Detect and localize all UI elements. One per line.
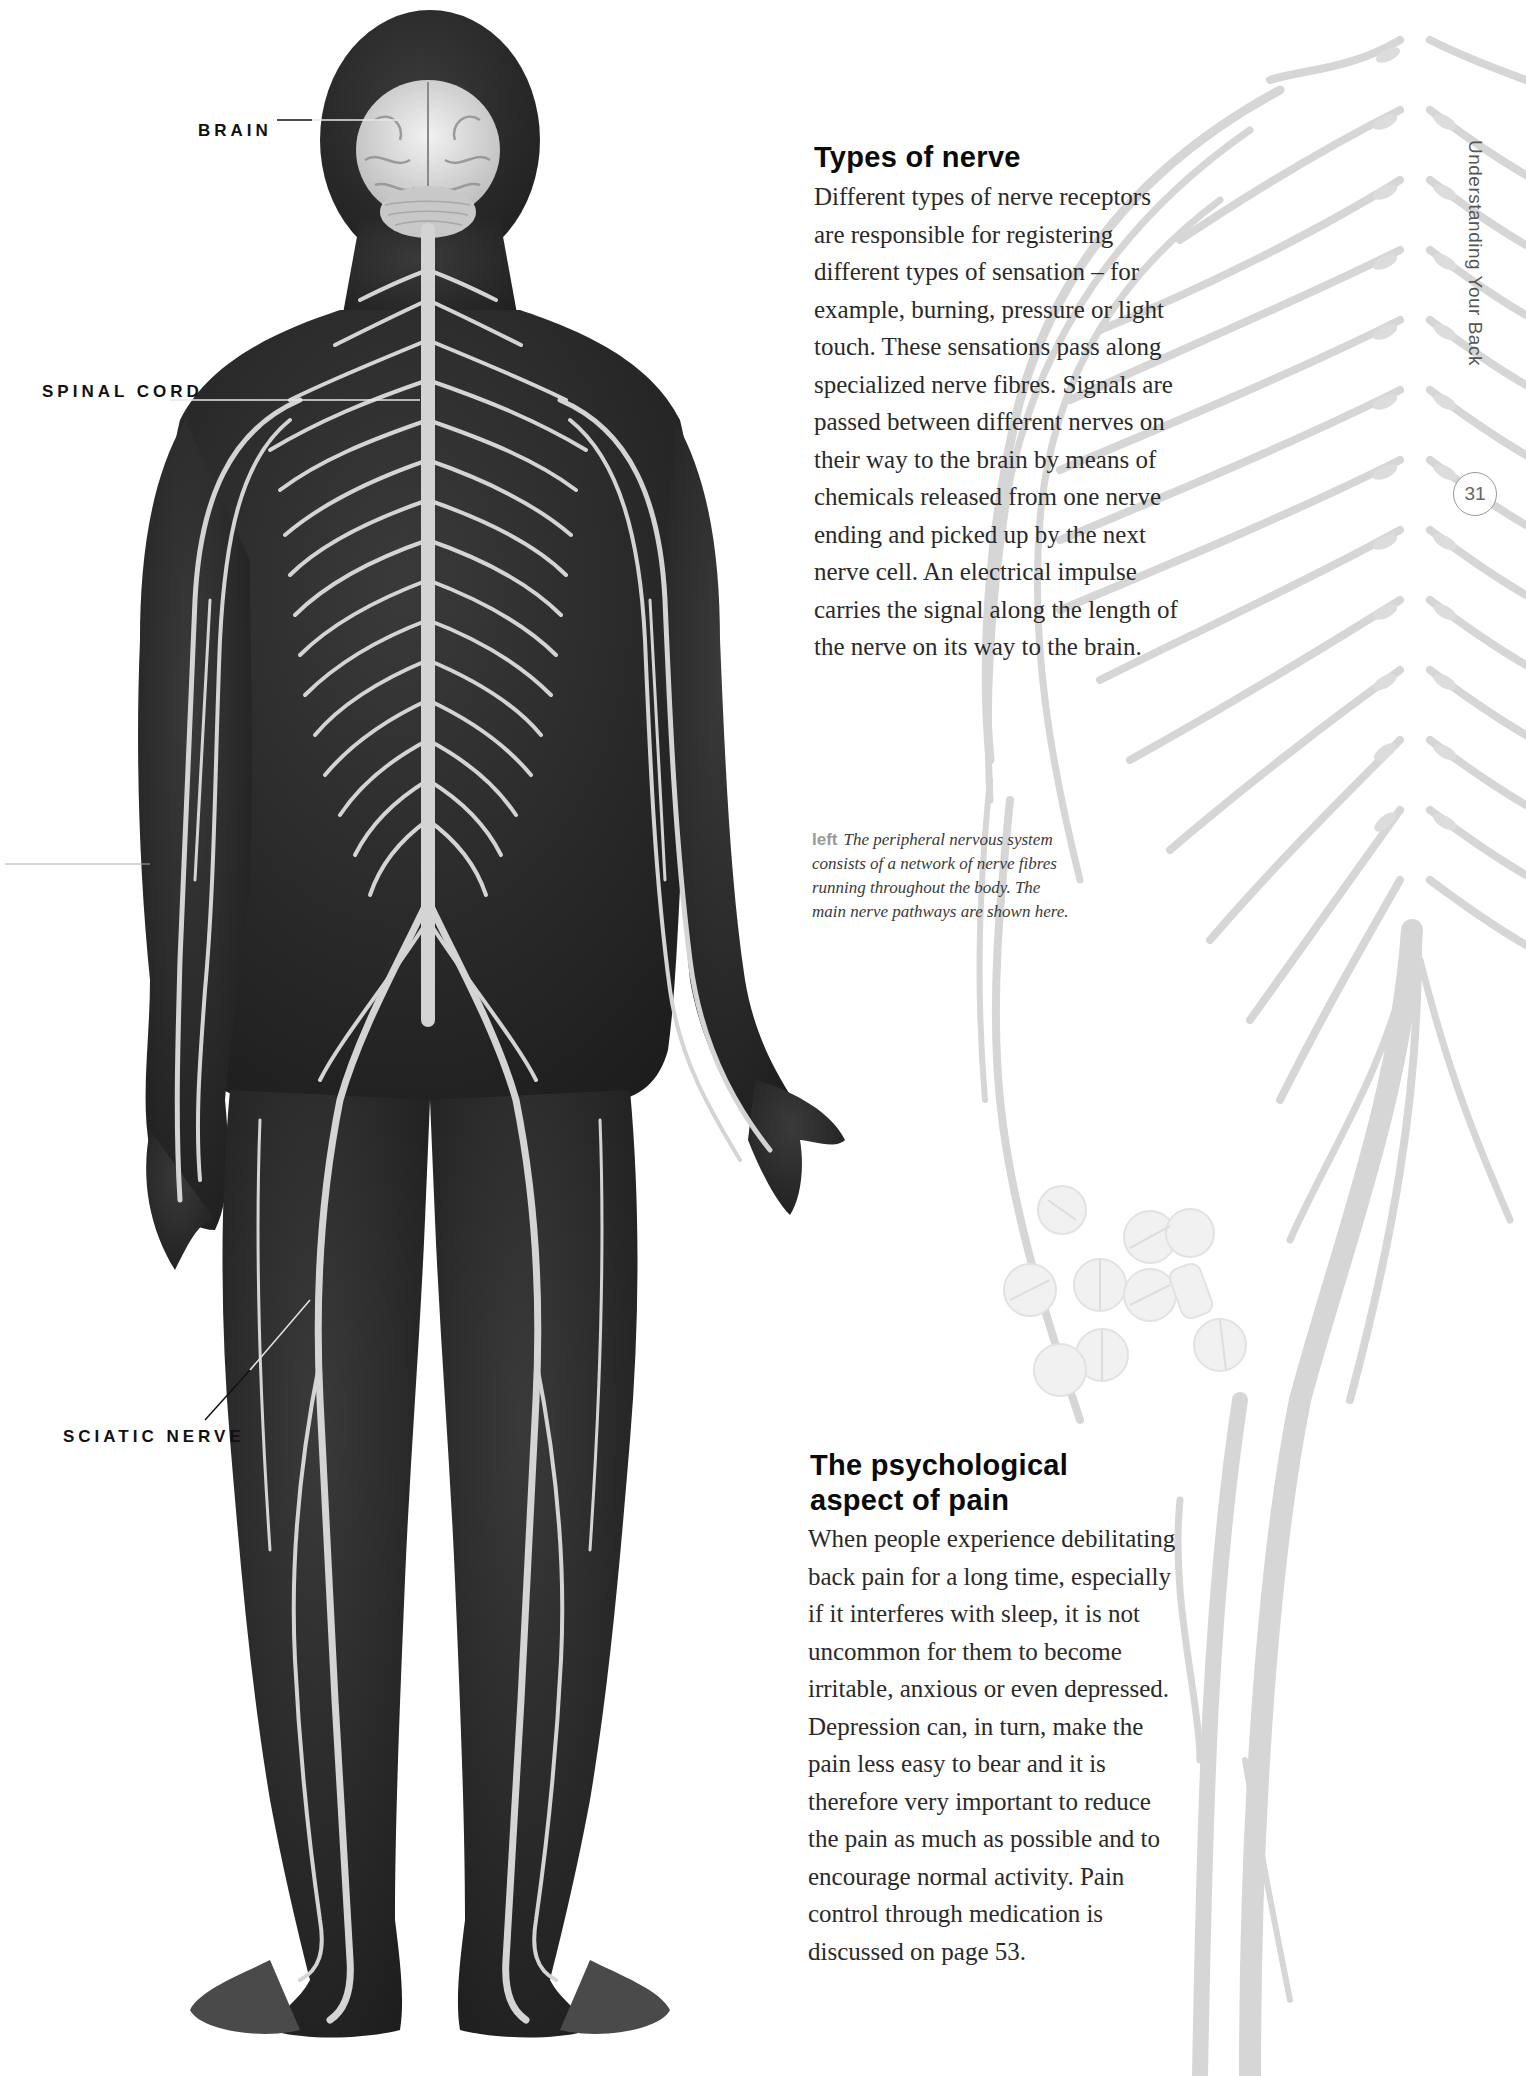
text-line: the pain as much as possible and to <box>808 1820 1175 1858</box>
section-heading-psychological-aspect: The psychological aspect of pain <box>810 1448 1068 1518</box>
text-line: irritable, anxious or even depressed. <box>808 1670 1175 1708</box>
text-line: When people experience debilitating <box>808 1520 1175 1558</box>
caption-line: The peripheral nervous system <box>844 830 1053 849</box>
text-line: uncommon for them to become <box>808 1633 1175 1671</box>
text-line: carries the signal along the length of <box>814 591 1178 629</box>
text-line: back pain for a long time, especially <box>808 1558 1175 1596</box>
text-line: discussed on page 53. <box>808 1933 1175 1971</box>
figure-caption: leftThe peripheral nervous system consis… <box>812 828 1069 924</box>
text-line: example, burning, pressure or light <box>814 291 1178 329</box>
text-line: nerve cell. An electrical impulse <box>814 553 1178 591</box>
label-spinal-cord: SPINAL CORD <box>42 382 203 402</box>
text-line: encourage normal activity. Pain <box>808 1858 1175 1896</box>
label-sciatic-nerve: SCIATIC NERVE <box>63 1427 245 1447</box>
caption-line: running throughout the body. The <box>812 876 1069 900</box>
body-silhouette <box>138 10 845 2038</box>
section-body-psychological-aspect: When people experience debilitating back… <box>808 1520 1175 1970</box>
text-line: if it interferes with sleep, it is not <box>808 1595 1175 1633</box>
text-line: different types of sensation – for <box>814 253 1178 291</box>
caption-line: main nerve pathways are shown here. <box>812 900 1069 924</box>
text-line: passed between different nerves on <box>814 403 1178 441</box>
text-line: Depression can, in turn, make the <box>808 1708 1175 1746</box>
caption-key: left <box>812 830 838 849</box>
page-number: 31 <box>1453 472 1497 516</box>
text-line: therefore very important to reduce <box>808 1783 1175 1821</box>
text-line: specialized nerve fibres. Signals are <box>814 366 1178 404</box>
text-line: ending and picked up by the next <box>814 516 1178 554</box>
text-line: control through medication is <box>808 1895 1175 1933</box>
text-line: pain less easy to bear and it is <box>808 1745 1175 1783</box>
text-line: touch. These sensations pass along <box>814 328 1178 366</box>
text-line: Different types of nerve receptors <box>814 178 1178 216</box>
heading-line: aspect of pain <box>810 1483 1068 1518</box>
running-head: Understanding Your Back <box>1464 140 1486 366</box>
text-line: chemicals released from one nerve <box>814 478 1178 516</box>
section-body-types-of-nerve: Different types of nerve receptors are r… <box>814 178 1178 666</box>
text-line: their way to the brain by means of <box>814 441 1178 479</box>
caption-line: consists of a network of nerve fibres <box>812 852 1069 876</box>
human-figure-nervous-system <box>0 0 1526 2076</box>
heading-line: The psychological <box>810 1448 1068 1483</box>
section-heading-types-of-nerve: Types of nerve <box>814 140 1021 175</box>
text-line: are responsible for registering <box>814 216 1178 254</box>
label-brain: BRAIN <box>198 121 272 141</box>
text-line: the nerve on its way to the brain. <box>814 628 1178 666</box>
